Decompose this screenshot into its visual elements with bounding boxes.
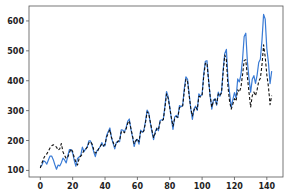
- x-tick-label: 40: [99, 182, 111, 190]
- series-line-actual: [40, 14, 271, 169]
- x-tick-label: 80: [164, 182, 176, 190]
- y-tick-label: 500: [7, 47, 24, 56]
- series-line-predicted: [40, 45, 271, 168]
- plot-area: [40, 14, 271, 169]
- x-axis: 020406080100120140: [38, 177, 276, 190]
- x-tick-label: 20: [67, 182, 79, 190]
- line-chart: 100200300400500600 020406080100120140: [0, 0, 300, 190]
- x-tick-label: 120: [226, 182, 243, 190]
- y-tick-label: 300: [7, 107, 24, 116]
- chart-canvas: 100200300400500600 020406080100120140: [0, 0, 300, 190]
- x-tick-label: 60: [132, 182, 144, 190]
- y-axis: 100200300400500600: [7, 17, 29, 175]
- x-tick-label: 140: [258, 182, 275, 190]
- y-tick-label: 100: [7, 166, 24, 175]
- x-tick-label: 100: [194, 182, 211, 190]
- y-tick-label: 400: [7, 77, 24, 86]
- x-tick-label: 0: [38, 182, 44, 190]
- plot-frame: [29, 6, 283, 177]
- y-tick-label: 200: [7, 137, 24, 146]
- y-tick-label: 600: [7, 17, 24, 26]
